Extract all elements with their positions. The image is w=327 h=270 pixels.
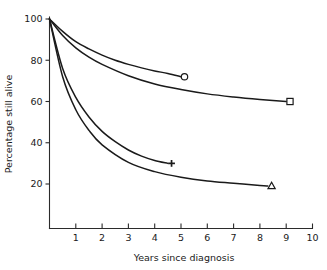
y-tick-label-20: 20 <box>30 178 42 189</box>
marker-circle <box>181 74 187 80</box>
x-axis-tick-labels: 12345678910 <box>73 232 319 243</box>
x-tick-label-8: 8 <box>257 232 263 243</box>
y-tick-label-40: 40 <box>30 137 42 148</box>
y-axis-title: Percentage still alive <box>3 75 14 174</box>
x-tick-label-9: 9 <box>283 232 289 243</box>
marker-square <box>287 98 293 104</box>
curve-square <box>50 19 287 102</box>
survival-curve-chart: 20406080100 12345678910 Years since diag… <box>0 0 327 270</box>
x-tick-label-5: 5 <box>178 232 184 243</box>
y-tick-label-80: 80 <box>30 55 42 66</box>
y-axis-ticks <box>46 19 50 184</box>
x-tick-label-7: 7 <box>231 232 237 243</box>
marker-triangle <box>268 182 275 188</box>
x-tick-label-1: 1 <box>73 232 79 243</box>
marker-plus <box>168 160 175 167</box>
x-axis-ticks <box>76 224 313 229</box>
x-tick-label-10: 10 <box>306 232 318 243</box>
y-tick-label-100: 100 <box>24 13 42 24</box>
chart-canvas: 20406080100 12345678910 Years since diag… <box>0 0 327 270</box>
x-tick-label-4: 4 <box>152 232 158 243</box>
x-axis-title: Years since diagnosis <box>133 252 235 263</box>
y-axis-tick-labels: 20406080100 <box>24 13 42 189</box>
x-tick-label-2: 2 <box>99 232 105 243</box>
y-tick-label-60: 60 <box>30 96 42 107</box>
x-tick-label-3: 3 <box>125 232 131 243</box>
curve-circle <box>50 19 182 77</box>
data-curves <box>50 19 287 186</box>
x-tick-label-6: 6 <box>204 232 210 243</box>
